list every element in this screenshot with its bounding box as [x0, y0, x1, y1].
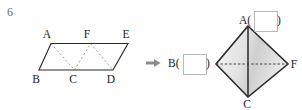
parallelogram-outline: [39, 44, 128, 71]
parallelogram-dashed-edges: [51, 44, 113, 71]
label-E-left: E: [122, 28, 129, 40]
dashed-edge-ac: [51, 44, 75, 71]
label-F-right: F: [291, 58, 297, 70]
dashed-edge-fd: [91, 44, 114, 71]
dashed-edge-cf: [75, 44, 91, 71]
worksheet-figure-panel: 6 A F E B C D: [0, 0, 302, 110]
transform-arrow-icon: [146, 59, 161, 67]
answer-top-prefix: A(: [239, 14, 251, 26]
answer-box-left[interactable]: [183, 54, 207, 75]
label-D-left: D: [107, 73, 115, 85]
label-F-left: F: [84, 28, 90, 40]
answer-box-top[interactable]: [254, 11, 278, 32]
label-C-left: C: [69, 73, 77, 85]
answer-left-suffix: ): [206, 57, 210, 69]
rhombus-group: F C: [216, 26, 297, 110]
label-A-left: A: [43, 28, 52, 40]
label-B-left: B: [32, 73, 40, 85]
rhombus-outline: [216, 26, 288, 97]
answer-top-suffix: ): [277, 14, 281, 26]
right-arrow-glyph: [146, 59, 161, 67]
answer-left-prefix: B(: [168, 57, 180, 69]
label-C-right: C: [243, 98, 251, 110]
parallelogram-group: A F E B C D: [32, 28, 129, 85]
